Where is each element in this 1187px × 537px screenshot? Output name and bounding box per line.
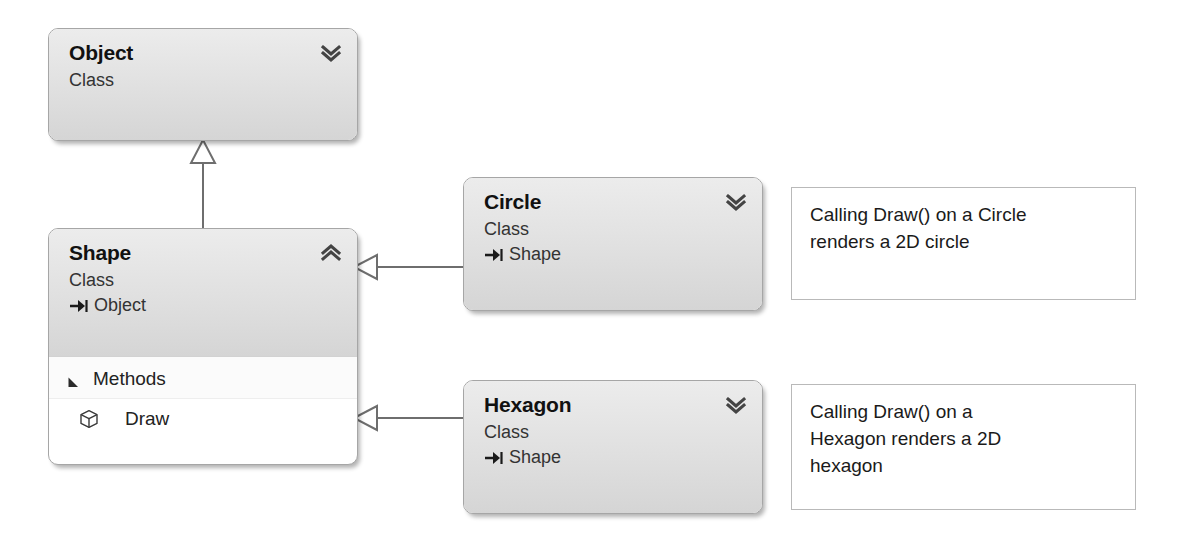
uml-class-name: Circle bbox=[484, 190, 746, 214]
uml-class-base-label: Shape bbox=[509, 446, 561, 469]
uml-class-circle[interactable]: Circle Class Shape bbox=[463, 177, 763, 311]
note-line: renders a 2D circle bbox=[810, 229, 1117, 256]
connector-hexagon-to-shape bbox=[354, 406, 463, 430]
uml-class-base: Object bbox=[69, 294, 341, 317]
uml-class-shape[interactable]: Shape Class Object bbox=[48, 228, 358, 465]
inheritance-arrow-icon bbox=[484, 449, 504, 465]
uml-class-base-label: Shape bbox=[509, 243, 561, 266]
uml-class-hexagon[interactable]: Hexagon Class Shape bbox=[463, 380, 763, 514]
uml-class-base: Shape bbox=[484, 243, 746, 266]
compartment-header-methods[interactable]: Methods bbox=[49, 357, 357, 399]
note-box-circle[interactable]: Calling Draw() on a Circle renders a 2D … bbox=[791, 187, 1136, 300]
caret-expanded-icon[interactable] bbox=[67, 372, 81, 386]
uml-class-name: Hexagon bbox=[484, 393, 746, 417]
member-label: Draw bbox=[125, 408, 169, 430]
uml-class-name: Shape bbox=[69, 241, 341, 265]
compartment-label: Methods bbox=[93, 368, 166, 390]
uml-class-base-label: Object bbox=[94, 294, 146, 317]
note-line: Calling Draw() on a Circle bbox=[810, 202, 1117, 229]
double-chevron-down-icon[interactable] bbox=[724, 392, 748, 416]
inheritance-arrow-icon bbox=[69, 297, 89, 313]
uml-class-stereotype: Class bbox=[69, 68, 341, 92]
member-row-draw[interactable]: Draw bbox=[49, 399, 357, 442]
double-chevron-up-icon[interactable] bbox=[319, 240, 343, 264]
note-line: hexagon bbox=[810, 453, 1117, 480]
uml-class-header: Shape Class Object bbox=[49, 229, 357, 357]
note-box-hexagon[interactable]: Calling Draw() on a Hexagon renders a 2D… bbox=[791, 384, 1136, 510]
uml-class-header: Circle Class Shape bbox=[464, 178, 762, 310]
inheritance-arrow-icon bbox=[484, 246, 504, 262]
uml-class-header: Object Class bbox=[49, 29, 357, 140]
uml-diagram-canvas: Object Class Shape Class bbox=[0, 0, 1187, 537]
connector-shape-to-object bbox=[191, 140, 215, 230]
method-cube-icon bbox=[79, 409, 99, 429]
note-line: Hexagon renders a 2D bbox=[810, 426, 1117, 453]
uml-class-object[interactable]: Object Class bbox=[48, 28, 358, 141]
note-line: Calling Draw() on a bbox=[810, 399, 1117, 426]
uml-class-header: Hexagon Class Shape bbox=[464, 381, 762, 513]
uml-class-base: Shape bbox=[484, 446, 746, 469]
uml-class-stereotype: Class bbox=[484, 420, 746, 444]
uml-class-name: Object bbox=[69, 41, 341, 65]
uml-class-stereotype: Class bbox=[484, 217, 746, 241]
connector-circle-to-shape bbox=[354, 255, 463, 279]
uml-class-body: Methods Draw bbox=[49, 357, 357, 442]
double-chevron-down-icon[interactable] bbox=[724, 189, 748, 213]
double-chevron-down-icon[interactable] bbox=[319, 40, 343, 64]
uml-class-stereotype: Class bbox=[69, 268, 341, 292]
